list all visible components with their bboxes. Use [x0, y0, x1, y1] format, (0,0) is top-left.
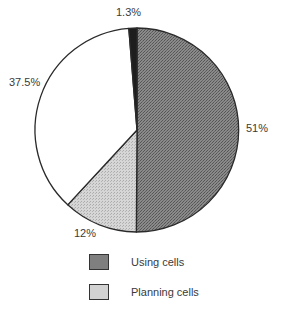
- legend-item-using: Using cells: [89, 254, 184, 270]
- legend-swatch-using: [89, 254, 109, 270]
- legend-label-using: Using cells: [131, 256, 184, 268]
- label-white-slice: 37.5%: [9, 76, 40, 88]
- legend-item-planning: Planning cells: [89, 284, 199, 300]
- legend-swatch-planning: [89, 284, 109, 300]
- label-planning-slice: 12%: [74, 227, 96, 239]
- pie-slices: [35, 28, 239, 232]
- legend-label-planning: Planning cells: [131, 286, 199, 298]
- pie-chart: [0, 0, 285, 318]
- label-dark-slice: 1.3%: [116, 6, 141, 18]
- pie-slice-0: [136, 28, 238, 232]
- label-using-slice: 51%: [246, 122, 268, 134]
